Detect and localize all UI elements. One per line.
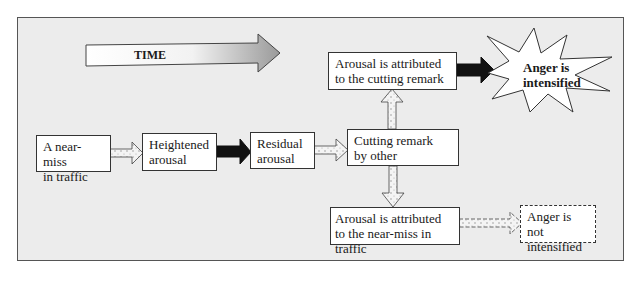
- node-text: arousal: [257, 151, 308, 166]
- node-attributed-to-near-miss: Arousal is attributed to the near-miss i…: [330, 207, 460, 245]
- node-text: A near-miss: [43, 139, 104, 169]
- node-text: by other: [354, 148, 452, 163]
- arrow-black-2-icon: [456, 57, 494, 83]
- node-text: Arousal is attributed: [335, 211, 455, 226]
- arrow-stippled-2-icon: [314, 139, 348, 161]
- arrow-stippled-1-icon: [110, 142, 143, 164]
- node-text: in traffic: [43, 169, 104, 184]
- time-label: TIME: [134, 48, 166, 63]
- node-cutting-remark: Cutting remark by other: [347, 129, 459, 166]
- node-text: intensified: [527, 239, 589, 254]
- node-text: Cutting remark: [354, 133, 452, 148]
- node-anger-not-intensified: Anger is not intensified: [520, 205, 596, 243]
- node-heightened-arousal: Heightened arousal: [142, 133, 217, 171]
- node-text: Residual: [257, 136, 308, 151]
- arrow-stippled-down-icon: [382, 166, 404, 207]
- arrow-dashed-icon: [459, 212, 522, 234]
- node-text: Arousal is attributed: [335, 56, 450, 71]
- node-text: to the cutting remark: [335, 71, 450, 86]
- node-anger-intensified: Anger is intensified: [523, 60, 581, 90]
- node-text: arousal: [149, 152, 210, 167]
- node-text: intensified: [523, 75, 581, 90]
- node-text: Anger is not: [527, 209, 589, 239]
- node-text: Anger is: [523, 60, 581, 75]
- node-near-miss: A near-miss in traffic: [36, 135, 111, 172]
- node-residual-arousal: Residual arousal: [250, 132, 315, 169]
- node-text: Heightened: [149, 137, 210, 152]
- node-attributed-to-remark: Arousal is attributed to the cutting rem…: [328, 52, 457, 90]
- arrow-black-1-icon: [216, 139, 251, 164]
- time-arrow-icon: [86, 34, 280, 72]
- node-text: to the near-miss in traffic: [335, 226, 455, 256]
- arrow-stippled-up-icon: [381, 89, 403, 129]
